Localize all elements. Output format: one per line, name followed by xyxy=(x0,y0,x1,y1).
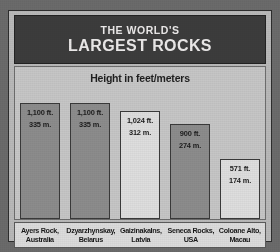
category-label-name: Coloane Alto, xyxy=(219,226,261,235)
bar-value-feet: 1,100 ft. xyxy=(77,108,103,118)
bar-value-meters: 274 m. xyxy=(179,141,201,151)
chart-frame: THE WORLD'S LARGEST ROCKS Height in feet… xyxy=(8,10,272,242)
title-banner: THE WORLD'S LARGEST ROCKS xyxy=(14,15,266,64)
category-label-country: Australia xyxy=(26,235,54,244)
infographic-root: THE WORLD'S LARGEST ROCKS Height in feet… xyxy=(0,0,280,252)
category-label: Ayers Rock,Australia xyxy=(16,223,63,247)
category-label: Gaizinakalns,Latvia xyxy=(117,223,164,247)
category-label-country: Macau xyxy=(230,235,251,244)
category-label-name: Dzyarzhynskay, xyxy=(66,226,115,235)
category-label-name: Gaizinakalns, xyxy=(120,226,162,235)
title-line-1: THE WORLD'S xyxy=(100,24,179,36)
category-label-country: USA xyxy=(183,235,197,244)
category-label-name: Seneca Rocks, xyxy=(167,226,214,235)
category-label: Seneca Rocks,USA xyxy=(167,223,214,247)
bar-value-feet: 900 ft. xyxy=(180,129,200,139)
category-label-country: Latvia xyxy=(132,235,151,244)
category-label-country: Belarus xyxy=(78,235,102,244)
title-line-2: LARGEST ROCKS xyxy=(68,37,212,55)
bar-value-meters: 335 m. xyxy=(79,120,101,130)
bar-value-feet: 1,024 ft. xyxy=(127,116,153,126)
bars-plot-area: 1,100 ft.335 m.1,100 ft.335 m.1,024 ft.3… xyxy=(15,67,265,219)
bar-gaizinakalns: 1,024 ft.312 m. xyxy=(120,111,160,219)
bar-value-meters: 174 m. xyxy=(229,176,251,186)
bar-value-meters: 312 m. xyxy=(129,128,151,138)
bar-value-feet: 1,100 ft. xyxy=(27,108,53,118)
bar-coloane-alto: 571 ft.174 m. xyxy=(220,159,260,219)
chart-panel: Height in feet/meters 1,100 ft.335 m.1,1… xyxy=(14,66,266,220)
bar-value-meters: 335 m. xyxy=(29,120,51,130)
bar-dzyarzhynskay: 1,100 ft.335 m. xyxy=(70,103,110,219)
category-label: Coloane Alto,Macau xyxy=(217,223,264,247)
category-label-strip: Ayers Rock,AustraliaDzyarzhynskay,Belaru… xyxy=(14,222,266,248)
category-label-name: Ayers Rock, xyxy=(21,226,59,235)
category-label: Dzyarzhynskay,Belarus xyxy=(66,223,115,247)
bar-seneca-rocks: 900 ft.274 m. xyxy=(170,124,210,219)
bar-value-feet: 571 ft. xyxy=(230,164,250,174)
bar-ayers-rock: 1,100 ft.335 m. xyxy=(20,103,60,219)
